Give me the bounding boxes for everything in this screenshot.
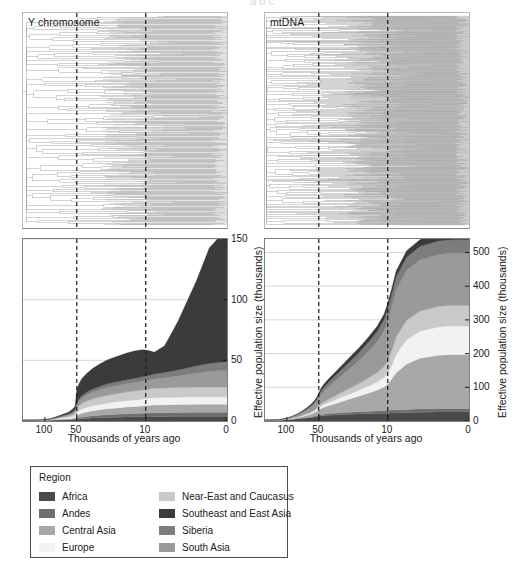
legend-item[interactable]: Southeast and East Asia [159,505,294,522]
y-tick-label: 100 [231,293,248,304]
cropped-header-strip: a b c [0,0,524,9]
legend-item-label: Siberia [182,525,213,536]
legend-item[interactable]: South Asia [159,539,294,556]
y-tick-label: 100 [473,381,490,392]
legend-swatch-icon [159,543,175,552]
area-chart-mtdna [264,238,470,422]
figure-root: a b c Y chromosome mtDNA 10050100 050100… [0,0,524,583]
y-tick-label: 300 [473,313,490,324]
y-tick-label: 0 [231,415,237,426]
legend-item[interactable]: Andes [39,505,116,522]
legend-swatch-icon [39,543,55,552]
legend-item[interactable]: Central Asia [39,522,116,539]
legend-item-label: Andes [62,508,90,519]
tree-panel-y-chromosome [22,12,228,229]
y-axis-title-y-chromosome: Effective population size (thousands) [252,247,264,418]
x-tick-label: 0 [223,424,229,435]
legend-item[interactable]: Europe [39,539,116,556]
phylogenetic-tree-y-chromosome [23,13,227,228]
x-tick-label: 0 [465,424,471,435]
legend-item-label: Near-East and Caucasus [182,491,294,502]
legend-item-label: Africa [62,491,88,502]
x-axis-title-y-chromosome: Thousands of years ago [68,432,181,444]
legend-item-label: Central Asia [62,525,116,536]
legend-item[interactable]: Africa [39,488,116,505]
legend-swatch-icon [39,526,55,535]
legend-item[interactable]: Near-East and Caucasus [159,488,294,505]
legend-item[interactable]: Siberia [159,522,294,539]
legend-swatch-icon [39,492,55,501]
y-tick-label: 500 [473,246,490,257]
legend-item-label: Europe [62,542,94,553]
legend-item-label: South Asia [182,542,230,553]
y-tick-label: 200 [473,347,490,358]
y-tick-label: 50 [231,354,242,365]
area-chart-mtdna-svg [265,239,469,421]
x-axis-title-mtdna: Thousands of years ago [310,432,423,444]
y-tick-label: 150 [231,233,248,244]
phylogenetic-tree-mtdna [265,13,469,228]
legend-column-left: AfricaAndesCentral AsiaEurope [39,488,116,556]
y-tick-label: 0 [473,415,479,426]
legend-swatch-icon [159,509,175,518]
legend: Region AfricaAndesCentral AsiaEurope Nea… [30,466,288,558]
tree-panel-mtdna [264,12,470,229]
panel-title-y-chromosome: Y chromosome [28,16,100,28]
y-tick-label: 400 [473,280,490,291]
legend-title: Region [39,472,71,483]
y-axis-title-mtdna: Effective population size (thousands) [496,247,508,418]
cropped-header-text: a b c [250,0,274,7]
legend-swatch-icon [39,509,55,518]
x-tick-label: 100 [36,424,53,435]
legend-column-right: Near-East and CaucasusSoutheast and East… [159,488,294,556]
area-chart-y-chromosome-svg [23,239,227,421]
legend-item-label: Southeast and East Asia [182,508,291,519]
area-chart-y-chromosome [22,238,228,422]
legend-swatch-icon [159,492,175,501]
x-tick-label: 100 [278,424,295,435]
panel-title-mtdna: mtDNA [270,16,304,28]
legend-swatch-icon [159,526,175,535]
